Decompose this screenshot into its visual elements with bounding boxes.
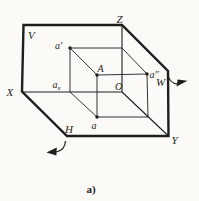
fold-arrow-h-head-icon	[47, 148, 57, 156]
line-aprime-to-A	[70, 48, 97, 75]
profile-projection-dot	[145, 72, 148, 75]
frontal-projection-dot	[68, 46, 71, 49]
horizontal-projection-label: a	[92, 120, 97, 131]
descriptive-geometry-figure: V H W X Y Z O a′ A a″ a ax a)	[0, 0, 199, 201]
line-A-to-adoubleprime	[97, 74, 147, 75]
line-az-to-adoubleprime	[122, 48, 147, 74]
horizontal-projection-dot	[95, 115, 98, 118]
fold-arrow-h-icon	[57, 141, 66, 152]
plane-v-label: V	[28, 29, 36, 41]
ax-point-label: ax	[53, 79, 62, 92]
line-ax-to-a	[70, 92, 97, 117]
z-axis-label: Z	[117, 13, 124, 25]
y-axis-label: Y	[172, 134, 180, 146]
x-axis-label: X	[6, 86, 15, 98]
profile-projection-label: a″	[150, 69, 160, 80]
plane-h-label: H	[64, 123, 74, 135]
figure-caption: a)	[87, 183, 97, 196]
origin-label: O	[115, 81, 122, 92]
space-point-label: A	[97, 63, 105, 74]
frontal-projection-label: a′	[55, 40, 63, 51]
ax-label-subscript: x	[57, 84, 62, 92]
line-adoubleprime-to-y-axis	[147, 74, 148, 117]
y-axis	[122, 92, 169, 136]
fold-arrow-w-head-icon	[177, 80, 188, 87]
projection-planes-diagram: V H W X Y Z O a′ A a″ a ax a)	[0, 0, 199, 201]
